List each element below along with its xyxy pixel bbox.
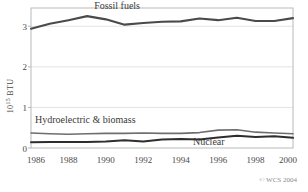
y-axis-title-group: 1015 BTU <box>5 79 15 113</box>
series-line-nuclear <box>31 136 293 142</box>
y-axis-tick-labels: 0123 <box>23 22 32 154</box>
plot-frame <box>31 8 293 148</box>
y-axis-title: 1015 BTU <box>5 79 15 113</box>
series-label-hydroelectric-biomass: Hydroelectric & biomass <box>35 114 136 125</box>
x-tick-label-1996: 1996 <box>209 155 228 165</box>
x-tick-label-1998: 1998 <box>247 155 266 165</box>
y-tick-label-3: 3 <box>23 22 28 32</box>
y-axis-title-text: 1015 BTU <box>5 79 15 113</box>
series-line-hydroelectric-biomass <box>31 130 293 134</box>
y-tick-label-2: 2 <box>23 62 28 72</box>
plot-border <box>31 8 293 148</box>
series-label-nuclear: Nuclear <box>193 136 225 147</box>
chart-canvas: 0123 19861988199019921994199619982000 Fo… <box>0 0 308 192</box>
x-tick-label-1994: 1994 <box>172 155 191 165</box>
energy-consumption-line-chart: 0123 19861988199019921994199619982000 Fo… <box>0 0 308 192</box>
x-tick-label-1988: 1988 <box>59 155 78 165</box>
x-tick-label-1992: 1992 <box>134 155 152 165</box>
series-annotation-labels: Fossil fuelsHydroelectric & biomassNucle… <box>35 0 225 147</box>
x-axis-tick-labels: 19861988199019921994199619982000 <box>27 155 298 165</box>
x-tick-label-2000: 2000 <box>279 155 298 165</box>
x-tick-label-1986: 1986 <box>27 155 46 165</box>
y-axis-title-mantissa: 10 <box>6 105 15 114</box>
series-label-fossil-fuels: Fossil fuels <box>94 0 140 11</box>
x-tick-label-1990: 1990 <box>97 155 116 165</box>
y-tick-label-0: 0 <box>23 144 28 154</box>
y-tick-label-1: 1 <box>23 103 28 113</box>
gridlines-group <box>31 26 293 107</box>
series-line-fossil-fuels <box>31 16 293 29</box>
copyright-notice: © WCS 2004 <box>259 176 297 184</box>
y-axis-title-unit: BTU <box>6 79 15 98</box>
